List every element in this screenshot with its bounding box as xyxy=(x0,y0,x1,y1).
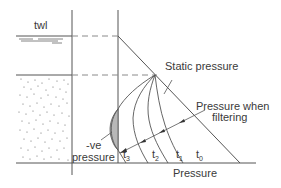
twl-label: twl xyxy=(34,19,47,31)
filter-pressure-diagram: twl Static pressure Pressure when filter… xyxy=(0,0,281,188)
filter-column xyxy=(16,36,72,163)
pressure-axis-label: Pressure xyxy=(173,167,217,179)
t0-label: t0 xyxy=(196,148,203,162)
sand-dots xyxy=(18,78,69,160)
curve-t1 xyxy=(148,75,168,163)
arrow-head-t1 xyxy=(159,129,165,133)
t1-label: t1 xyxy=(176,148,183,162)
neg-pressure-label-2: pressure xyxy=(72,151,115,163)
arrow-head-t2 xyxy=(140,139,146,143)
static-pressure-label: Static pressure xyxy=(165,60,238,72)
arrow-head-t0 xyxy=(179,119,185,123)
static-pressure-leader xyxy=(164,80,172,94)
pressure-when-filtering-label-2: filtering xyxy=(212,111,247,123)
t2-label: t2 xyxy=(152,148,159,162)
neg-pressure-label-1: -ve xyxy=(86,139,101,151)
filtering-curves xyxy=(111,75,183,163)
